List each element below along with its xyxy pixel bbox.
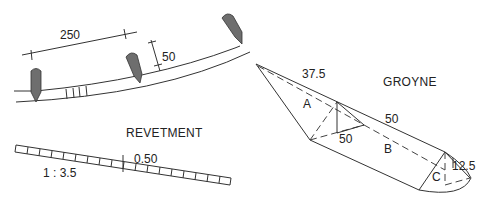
spacing-label: 250 — [60, 28, 80, 42]
plan-view: 250 50 — [14, 14, 250, 102]
trunk-length-label: 50 — [385, 112, 399, 126]
revetment-title: REVETMENT — [126, 126, 203, 140]
groyne-icon-1 — [31, 69, 41, 103]
section-a-label: A — [303, 97, 311, 111]
groyne-base-edge — [310, 140, 419, 190]
groyne-title: GROYNE — [383, 75, 437, 89]
coastal-structures-diagram: 250 50 REVETMENT — [0, 0, 484, 215]
groyne-icon-2 — [126, 53, 142, 83]
revetment-section: REVETMENT 0.50 1 : 3.5 — [15, 126, 231, 185]
shoreline-upper — [14, 46, 240, 91]
width-label: 50 — [339, 132, 353, 146]
head-height-label: 12.5 — [452, 159, 476, 173]
groyne-icon-3 — [222, 14, 242, 44]
root-length-label: 37.5 — [302, 67, 326, 81]
length-label: 50 — [162, 50, 176, 64]
groyne-3d: GROYNE 37.5 50 50 12.5 A B C — [256, 64, 476, 192]
slope-label: 1 : 3.5 — [43, 166, 77, 180]
length-dimension — [148, 40, 162, 71]
section-c-label: C — [432, 170, 441, 184]
thickness-label: 0.50 — [134, 152, 158, 166]
section-b-label: B — [384, 142, 392, 156]
